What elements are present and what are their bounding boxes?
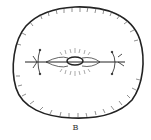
right-centrosome xyxy=(111,51,124,75)
cell-membrane xyxy=(13,7,143,118)
figure-label: B xyxy=(0,123,151,132)
cell-diagram xyxy=(0,0,151,140)
